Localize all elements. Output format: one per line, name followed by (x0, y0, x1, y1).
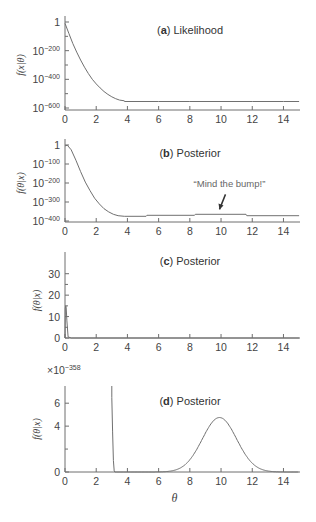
panel-title: (c) Posterior (160, 255, 221, 267)
x-tick-label: 14 (278, 341, 290, 353)
y-tick-label: 10−200 (33, 45, 61, 57)
y-tick-label: 10−400 (33, 215, 61, 227)
x-tick-label: 8 (187, 113, 193, 125)
x-tick-label: 12 (246, 113, 258, 125)
series-posterior (65, 306, 299, 338)
x-tick-label: 4 (124, 113, 130, 125)
y-multiplier-label: ×10−358 (47, 364, 81, 376)
x-tick-label: 2 (93, 113, 99, 125)
x-tick-label: 10 (215, 475, 227, 487)
x-tick-label: 2 (93, 341, 99, 353)
y-tick-label: 20 (48, 289, 60, 301)
y-tick-label: 30 (48, 268, 60, 280)
panel-a: 02468101214110−20010−40010−600f(x|θ)(a) … (15, 16, 300, 125)
y-tick-label: 10−600 (33, 102, 61, 114)
x-tick-label: 4 (124, 341, 130, 353)
x-tick-label: 14 (278, 475, 290, 487)
x-tick-label: 14 (278, 225, 290, 237)
x-tick-label: 2 (93, 475, 99, 487)
y-tick-label: 10 (48, 311, 60, 323)
x-tick-label: 4 (124, 225, 130, 237)
y-tick-label: 10−200 (33, 177, 61, 189)
x-tick-label: 0 (62, 341, 68, 353)
y-axis-label: f(x|θ) (15, 54, 27, 76)
series-bump (115, 418, 298, 473)
x-tick-label: 0 (62, 475, 68, 487)
y-tick-label: 1 (54, 139, 60, 151)
y-axis-label: f(θ|x) (31, 418, 43, 440)
y-tick-label: 10−100 (33, 158, 61, 170)
x-tick-label: 0 (62, 225, 68, 237)
x-tick-label: 12 (246, 225, 258, 237)
x-tick-label: 6 (156, 225, 162, 237)
x-tick-label: 2 (93, 225, 99, 237)
x-axis-label: θ (172, 491, 178, 505)
y-tick-label: 0 (54, 332, 60, 344)
x-tick-label: 14 (278, 113, 290, 125)
y-tick-label: 6 (54, 397, 60, 409)
x-tick-label: 6 (156, 341, 162, 353)
x-tick-label: 8 (187, 475, 193, 487)
y-axis-label: f(θ|x) (15, 172, 27, 194)
annotation-text: “Mind the bump!” (194, 178, 266, 189)
y-axis-label: f(θ|x) (31, 289, 43, 311)
panel-title: (d) Posterior (159, 395, 220, 407)
x-tick-label: 6 (156, 113, 162, 125)
x-tick-label: 12 (246, 341, 258, 353)
y-tick-label: 1 (54, 16, 60, 28)
x-tick-label: 12 (246, 475, 258, 487)
y-tick-label: 0 (54, 466, 60, 478)
x-tick-label: 6 (156, 475, 162, 487)
x-tick-label: 10 (215, 341, 227, 353)
x-tick-label: 8 (187, 341, 193, 353)
panel-title: (a) Likelihood (157, 24, 223, 36)
series-spike (112, 386, 115, 472)
y-tick-label: 10−400 (33, 73, 61, 85)
panel-d: 02468101214046f(θ|x)(d) Posterior×10−358… (31, 364, 300, 505)
panel-title: (b) Posterior (159, 147, 220, 159)
x-tick-label: 10 (215, 113, 227, 125)
x-tick-label: 10 (215, 225, 227, 237)
x-tick-label: 8 (187, 225, 193, 237)
y-tick-label: 4 (54, 420, 60, 432)
figure: 02468101214110−20010−40010−600f(x|θ)(a) … (0, 0, 316, 522)
panel-c: 024681012140102030f(θ|x)(c) Posterior (31, 252, 300, 353)
y-tick-label: 10−300 (33, 196, 61, 208)
panel-b: 02468101214110−10010−20010−30010−400f(θ|… (15, 139, 300, 237)
x-tick-label: 4 (124, 475, 130, 487)
x-tick-label: 0 (62, 113, 68, 125)
